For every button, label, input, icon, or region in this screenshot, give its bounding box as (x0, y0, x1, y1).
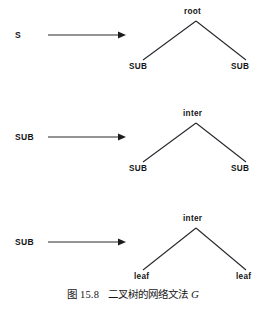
figure-caption: 图 15.8二叉树的网络文法 G (0, 286, 266, 301)
rule-3-right-child-label: leaf (236, 272, 251, 282)
rule-1-lhs-label: S (15, 30, 21, 40)
rule-3-root-node-label: inter (183, 214, 202, 224)
rule-3-arrow-icon (48, 234, 128, 254)
rule-1-root-node-label: root (184, 7, 201, 17)
rule-1-left-child-label: SUB (129, 62, 147, 72)
rule-1-right-child-label: SUB (231, 62, 249, 72)
rule-2-left-child-label: SUB (129, 164, 147, 174)
production-rule-2: SUB inter SUB SUB (0, 102, 266, 197)
rule-1-arrow-icon (48, 27, 128, 47)
production-rule-1: S root SUB SUB (0, 0, 266, 95)
caption-prefix: 图 (67, 288, 77, 300)
caption-number: 15.8 (77, 289, 99, 300)
rule-2-arrow-icon (48, 129, 128, 149)
rule-2-tree-edges (130, 118, 248, 166)
rule-2-root-node-label: inter (183, 109, 202, 119)
rule-2-lhs-label: SUB (15, 132, 34, 142)
rule-3-tree-edges (130, 223, 248, 273)
rule-1-tree-edges (130, 16, 248, 64)
figure-binary-tree-network-grammar: S root SUB SUB SUB inter (0, 0, 266, 315)
caption-symbol: G (188, 288, 199, 300)
rule-2-right-child-label: SUB (231, 164, 249, 174)
rule-3-left-child-label: leaf (134, 272, 149, 282)
caption-text: 二叉树的网络文法 (108, 288, 188, 300)
rule-3-lhs-label: SUB (15, 237, 34, 247)
